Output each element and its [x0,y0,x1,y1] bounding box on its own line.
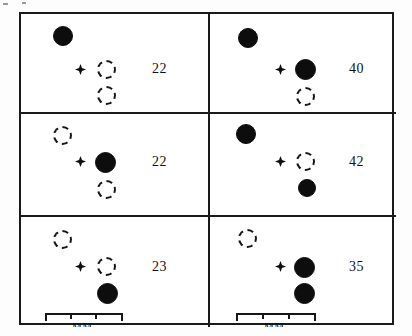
scale-tick-1 [262,313,264,319]
panel-1: 22 [21,14,208,112]
scale-bar: MM. [45,313,123,327]
scale-tick-2 [288,313,290,319]
upper-filled-circle [238,28,258,48]
lower-filled-circle [298,179,316,197]
lower-open-circle [97,86,116,105]
panel-value-label: 23 [152,259,167,275]
panel-value-label: 35 [349,259,364,275]
scale-bar-line [236,313,316,315]
panel-5: 23 MM. [21,215,208,327]
lower-filled-circle [294,283,315,304]
scan-artifact [22,2,26,4]
lower-open-circle [97,180,116,199]
four-point-star-marker [275,156,286,167]
panel-2: 40 [208,14,396,112]
panel-grid: 22 40 22 [19,12,394,325]
upper-open-circle [53,230,72,249]
upper-filled-circle [236,124,256,144]
panel-3: 22 [21,112,208,215]
upper-open-circle [53,126,72,145]
scan-artifact [3,3,8,5]
middle-open-circle [97,60,116,79]
middle-filled-circle [295,59,316,80]
panel-value-label: 22 [152,154,167,170]
lower-open-circle [296,87,315,106]
panel-6: 35 MM. [208,215,396,327]
four-point-star-marker [75,156,86,167]
lower-filled-circle [97,283,118,304]
panel-4: 42 [208,112,396,215]
middle-filled-circle [95,152,116,173]
scale-bar: MM. [236,313,316,327]
scale-bar-line [45,313,123,315]
scale-bar-label: MM. [236,320,316,327]
scale-tick-1 [70,313,72,319]
middle-filled-circle [294,257,315,278]
figure-root: 22 40 22 [0,0,412,336]
four-point-star-marker [275,64,286,75]
upper-open-circle [238,229,257,248]
middle-open-circle [97,257,116,276]
middle-open-circle [296,152,315,171]
panel-value-label: 42 [349,154,364,170]
four-point-star-marker [75,261,86,272]
four-point-star-marker [275,261,286,272]
scale-bar-label: MM. [45,320,123,327]
panel-value-label: 22 [152,61,167,77]
upper-filled-circle [53,26,73,46]
four-point-star-marker [75,64,86,75]
scale-tick-2 [95,313,97,319]
panel-value-label: 40 [349,61,364,77]
